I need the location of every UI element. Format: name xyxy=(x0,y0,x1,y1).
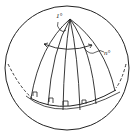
equator-front xyxy=(30,90,116,106)
arc-label-leader xyxy=(84,48,104,53)
equator-lower xyxy=(26,92,120,109)
apex-angle-label: 1° xyxy=(56,12,63,20)
equator-back-dashed xyxy=(8,64,32,98)
sphere-diagram: 1° n° xyxy=(0,0,134,136)
meridians xyxy=(31,19,115,110)
apex-angle-arc xyxy=(60,30,66,32)
right-angle-marks xyxy=(33,92,86,106)
apex-leader xyxy=(57,22,60,30)
equator-back-dashed-right xyxy=(116,64,126,88)
arc-angle-label: n° xyxy=(104,49,111,57)
